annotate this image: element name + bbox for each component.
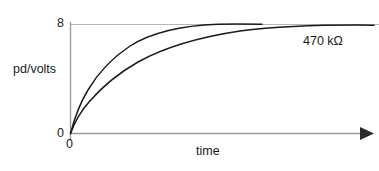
curve-faster (71, 24, 263, 134)
x-axis-label: time (196, 145, 220, 158)
capacitor-charging-chart: pd/volts time 8 0 0 470 kΩ (0, 0, 379, 171)
x-axis-tick-label-0: 0 (66, 138, 73, 151)
y-axis-tick-label-0: 0 (57, 127, 64, 140)
y-axis-tick-label-8: 8 (57, 17, 64, 30)
series-annotation-470k: 470 kΩ (303, 35, 343, 48)
x-axis-arrowhead (360, 127, 374, 140)
y-axis-label: pd/volts (13, 63, 56, 76)
